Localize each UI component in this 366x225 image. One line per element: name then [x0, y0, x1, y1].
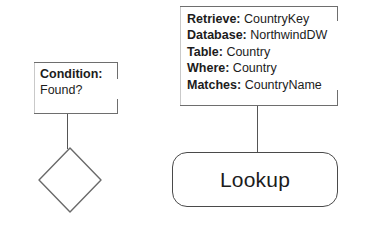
lookup-callout-row-key: Database: [187, 28, 247, 42]
lookup-callout-row-key: Table: [187, 45, 223, 59]
lookup-callout-row: Where: Country [187, 60, 337, 76]
lookup-callout-bottom-edge [180, 105, 338, 106]
lookup-callout-row-key: Retrieve: [187, 12, 241, 26]
condition-callout-text: Condition: Found? [40, 66, 124, 98]
lookup-callout-row-key: Where: [187, 61, 229, 75]
lookup-callout-row: Retrieve: CountryKey [187, 11, 337, 27]
lookup-callout-row-value: Country [233, 61, 277, 75]
condition-callout-row: Found? [40, 82, 124, 98]
decision-diamond[interactable] [36, 144, 104, 216]
lookup-callout-row-key: Matches: [187, 78, 241, 92]
lookup-callout-left-edge [180, 6, 181, 106]
condition-callout-row-value: Found? [40, 83, 82, 97]
condition-callout-bottom-edge [34, 113, 118, 114]
lookup-callout-row: Matches: CountryName [187, 77, 337, 93]
lookup-callout-row-value: CountryKey [244, 12, 309, 26]
lookup-callout-right-bottom-stub [337, 90, 338, 106]
lookup-connector-line [257, 106, 258, 153]
lookup-callout-row-value: CountryName [245, 78, 322, 92]
lookup-callout-right-top-stub [337, 6, 338, 21]
lookup-callout-top-edge [180, 6, 338, 7]
condition-callout-row-key: Condition: [40, 67, 102, 81]
lookup-shape-label: Lookup [220, 168, 290, 192]
condition-callout-top-edge [34, 62, 118, 63]
lookup-callout-row: Table: Country [187, 44, 337, 60]
diagram-canvas: Condition: Found? Retrieve: CountryKey D… [0, 0, 366, 225]
lookup-callout-text: Retrieve: CountryKey Database: Northwind… [187, 11, 337, 93]
lookup-callout-row: Database: NorthwindDW [187, 27, 337, 43]
lookup-callout-row-value: Country [226, 45, 270, 59]
lookup-callout-row-value: NorthwindDW [250, 28, 327, 42]
condition-callout-right-bottom-stub [117, 99, 118, 114]
decision-diamond-svg [36, 144, 104, 216]
condition-callout-row: Condition: [40, 66, 124, 82]
lookup-shape[interactable]: Lookup [172, 152, 338, 207]
condition-callout-left-edge [34, 62, 35, 114]
